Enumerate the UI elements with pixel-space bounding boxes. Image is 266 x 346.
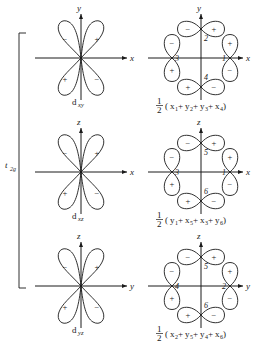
row-2-paren-close: ) — [223, 215, 226, 225]
row-3-ligand-horizontal-axis-label: y — [245, 281, 250, 291]
row-1-ligand-sign-top-right: + — [212, 24, 217, 34]
row-1-ligand-vertical-axis-label: y — [196, 3, 201, 13]
row-3-ligand-sign-right-lower: − — [228, 293, 233, 303]
row-1-ligand-horizontal-axis-label: x — [245, 53, 250, 63]
row-3-ligand-number-left: 4 — [175, 282, 179, 291]
row-1-ligand-sign-bottom-right: − — [212, 82, 217, 92]
row-1-orbital-sign-upper-left: − — [63, 34, 68, 44]
row-3-z-arrow-icon — [79, 242, 83, 247]
row-2-orbital-label-sub: xz — [77, 215, 84, 222]
row-1-y-arrow-icon — [79, 14, 83, 19]
figure-container: t 2g x y — [0, 0, 266, 346]
row-3-ligand-number-top: 5 — [204, 262, 208, 271]
row-1-plus-0: + — [178, 101, 183, 111]
row-2-plus-0: + — [178, 215, 183, 225]
row-1-ligand-sign-top-left: − — [186, 24, 191, 34]
row-1-orbital-sign-upper-right: + — [95, 34, 100, 44]
row-3-ligand-number-bottom: 6 — [204, 301, 208, 310]
row-3-ligand-vertical-axis-label: z — [196, 231, 201, 241]
row-2: x z − + + − d xz — [35, 117, 250, 229]
row-2-ligand-z-arrow-icon — [199, 128, 203, 133]
row-1-ligand-sign-left-lower: + — [170, 65, 175, 75]
row-1-orbital-sign-lower-right: − — [95, 74, 100, 84]
t2g-label-sub: 2g — [10, 166, 16, 172]
row-3-orbital-label-sub: yz — [77, 329, 84, 336]
row-1-ligand-sign-right-upper: + — [228, 38, 233, 48]
row-2-ligand-sign-right-upper: + — [228, 152, 233, 162]
row-2-ligand-sign-right-lower: − — [228, 179, 233, 189]
row-1-ligand-number-left: 3 — [174, 54, 179, 63]
row-1-x-arrow-icon — [122, 56, 127, 60]
t2g-bracket — [19, 33, 26, 288]
row-1-paren-close: ) — [223, 101, 226, 111]
row-2-plus-1: + — [193, 215, 198, 225]
row-3-ligand-orbital: y z − + − + + − + − — [148, 231, 250, 343]
row-2-combination: 1 2 ( y 1 + x 5 + x 3 + y 6 ) — [156, 210, 226, 229]
row-3-horizontal-axis-label: y — [129, 281, 134, 291]
row-2-ligand-sign-left-lower: + — [170, 179, 175, 189]
row-3-ligand-sign-bottom-left: + — [186, 310, 191, 320]
row-2-paren-open: ( — [165, 215, 168, 225]
row-1-ligand-orbital: x y − + — [148, 3, 250, 115]
row-2-ligand-sign-top-left: − — [186, 138, 191, 148]
row-1-ligand-number-top: 2 — [204, 34, 208, 43]
row-3-vertical-axis-label: z — [76, 231, 81, 241]
row-2-ligand-x-arrow-icon — [238, 170, 243, 174]
row-3-ligand-y-arrow-icon — [238, 284, 243, 288]
row-3-orbital-sign-upper-right: + — [95, 262, 100, 272]
row-1-d-orbital: x y − + + − d xy — [35, 3, 134, 108]
row-1: x y − + + − d xy — [35, 3, 250, 115]
row-1-ligand-y-arrow-icon — [199, 14, 203, 19]
row-1-orbital-label-base: d — [72, 97, 77, 107]
row-2-orbital-sign-lower-left: + — [63, 188, 68, 198]
row-3-orbital-sign-upper-left: − — [63, 262, 68, 272]
row-1-ligand-number-right: 1 — [222, 54, 226, 63]
row-2-ligand-sign-top-right: + — [212, 138, 217, 148]
row-2-orbital-sign-lower-right: − — [95, 188, 100, 198]
row-2-ligand-number-bottom: 6 — [204, 187, 208, 196]
row-3: y z − + + − d yz — [35, 231, 250, 343]
row-3-ligand-number-right: 2 — [222, 282, 226, 291]
row-3-orbital-label-base: d — [72, 325, 77, 335]
row-3-ligand-z-arrow-icon — [199, 242, 203, 247]
row-1-plus-1: + — [193, 101, 198, 111]
row-1-ligand-sign-bottom-left: + — [186, 82, 191, 92]
row-2-ligand-orbital: x z − + − + + − + − — [148, 117, 250, 229]
row-3-ligand-sign-top-right: + — [212, 252, 217, 262]
orbital-diagram-svg: t 2g x y — [0, 0, 266, 346]
row-2-vertical-axis-label: z — [76, 117, 81, 127]
row-1-orbital-sign-lower-left: + — [63, 74, 68, 84]
row-3-paren-close: ) — [223, 329, 226, 339]
row-3-ligand-sign-left-lower: + — [170, 293, 175, 303]
row-1-coef-denominator: 2 — [157, 105, 162, 115]
row-3-orbital-sign-lower-left: + — [63, 302, 68, 312]
row-2-ligand-number-top: 5 — [204, 148, 208, 157]
row-2-ligand-horizontal-axis-label: x — [245, 167, 250, 177]
row-1-horizontal-axis-label: x — [129, 53, 134, 63]
row-3-d-orbital: y z − + + − d yz — [35, 231, 134, 336]
row-1-ligand-number-bottom: 4 — [204, 73, 208, 82]
row-2-ligand-number-left: 3 — [174, 168, 179, 177]
row-1-ligand-x-arrow-icon — [238, 56, 243, 60]
row-3-ligand-sign-left-upper: − — [170, 266, 175, 276]
row-2-coef-denominator: 2 — [157, 219, 162, 229]
row-3-plus-0: + — [178, 329, 183, 339]
row-3-y-arrow-icon — [122, 284, 127, 288]
row-1-ligand-sign-right-lower: − — [228, 65, 233, 75]
row-3-ligand-sign-right-upper: + — [228, 266, 233, 276]
row-2-plus-2: + — [208, 215, 213, 225]
row-2-ligand-vertical-axis-label: z — [196, 117, 201, 127]
row-2-ligand-sign-left-upper: − — [170, 152, 175, 162]
row-1-vertical-axis-label: y — [76, 3, 81, 13]
row-2-orbital-label-base: d — [72, 211, 77, 221]
row-3-coef-denominator: 2 — [157, 333, 162, 343]
row-2-orbital-sign-upper-right: + — [95, 148, 100, 158]
row-2-ligand-sign-bottom-right: − — [212, 196, 217, 206]
row-2-ligand-number-right: 1 — [222, 168, 226, 177]
row-2-x-arrow-icon — [122, 170, 127, 174]
row-3-ligand-sign-top-left: − — [186, 252, 191, 262]
row-1-plus-2: + — [208, 101, 213, 111]
row-3-plus-2: + — [208, 329, 213, 339]
t2g-label-base: t — [5, 160, 8, 170]
row-2-d-orbital: x z − + + − d xz — [35, 117, 134, 222]
